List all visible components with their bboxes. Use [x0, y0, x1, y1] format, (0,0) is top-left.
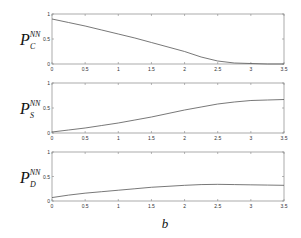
x-tick-label: 2.5 — [214, 203, 221, 209]
x-tick-label: 1 — [117, 135, 120, 141]
y-axis-label-subscript: D — [29, 180, 36, 189]
axes-box — [52, 83, 284, 133]
x-tick-label: 3.5 — [281, 135, 288, 141]
y-axis-label-subscript: S — [30, 111, 34, 120]
x-tick-label: 0 — [51, 203, 54, 209]
x-tick-label: 2 — [183, 203, 186, 209]
axes-box — [52, 152, 284, 201]
x-tick-label: 2.5 — [214, 135, 221, 141]
y-tick-label: 1 — [47, 11, 50, 17]
x-tick-label: 3.5 — [281, 66, 288, 72]
x-tick-label: 0 — [51, 66, 54, 72]
x-tick-label: 0 — [51, 135, 54, 141]
y-tick-label: 1 — [47, 149, 50, 155]
x-tick-label: 1.5 — [148, 66, 155, 72]
y-tick-label: 0 — [47, 130, 50, 136]
y-tick-label: 0 — [47, 198, 50, 204]
axes-box — [52, 14, 284, 64]
panel-top: 00.511.522.533.500.51PNNC — [19, 11, 288, 72]
x-tick-label: 1.5 — [148, 135, 155, 141]
series-line — [52, 19, 284, 64]
x-tick-label: 2 — [183, 66, 186, 72]
x-tick-label: 0.5 — [82, 135, 89, 141]
panel-bottom: 00.511.522.533.500.51PNND — [19, 149, 288, 209]
y-tick-label: 1 — [47, 80, 50, 86]
y-tick-label: 0.5 — [43, 105, 50, 111]
y-tick-label: 0 — [47, 61, 50, 67]
chart-figure: 00.511.522.533.500.51PNNC00.511.522.533.… — [0, 0, 301, 238]
x-tick-label: 3.5 — [281, 203, 288, 209]
y-tick-label: 0.5 — [43, 36, 50, 42]
panel-middle: 00.511.522.533.500.51PNNS — [19, 80, 288, 141]
x-tick-label: 0.5 — [82, 66, 89, 72]
x-axis-label: b — [162, 216, 169, 231]
x-tick-label: 3 — [249, 135, 252, 141]
x-tick-label: 2.5 — [214, 66, 221, 72]
x-tick-label: 3 — [249, 203, 252, 209]
x-tick-label: 0.5 — [82, 203, 89, 209]
x-tick-label: 1 — [117, 203, 120, 209]
x-tick-label: 2 — [183, 135, 186, 141]
x-tick-label: 1.5 — [148, 203, 155, 209]
x-tick-label: 1 — [117, 66, 120, 72]
x-tick-label: 3 — [249, 66, 252, 72]
y-tick-label: 0.5 — [43, 174, 50, 180]
series-line — [52, 100, 284, 133]
series-line — [52, 184, 284, 197]
y-axis-label-subscript: C — [30, 42, 36, 51]
